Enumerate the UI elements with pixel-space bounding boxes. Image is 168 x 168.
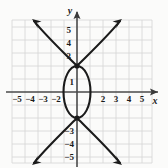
x-tick--2: −2 bbox=[51, 94, 61, 104]
coordinate-plane-graph: −5 −4 −3 −2 2 3 4 5 5 4 3 1 −3 −4 −5 y x bbox=[0, 0, 168, 168]
y-tick-1: 1 bbox=[70, 77, 75, 87]
x-tick-3: 3 bbox=[114, 94, 119, 104]
x-tick-4: 4 bbox=[127, 94, 132, 104]
intersection-point-top bbox=[74, 63, 79, 68]
x-tick-2: 2 bbox=[101, 94, 106, 104]
y-tick-5: 5 bbox=[67, 25, 72, 35]
y-tick-4: 4 bbox=[67, 38, 72, 48]
y-tick-3: 3 bbox=[67, 51, 72, 61]
x-tick--3: −3 bbox=[38, 94, 48, 104]
x-tick-5: 5 bbox=[140, 94, 145, 104]
x-tick--4: −4 bbox=[25, 94, 35, 104]
graph-canvas: −5 −4 −3 −2 2 3 4 5 5 4 3 1 −3 −4 −5 y x bbox=[0, 0, 168, 168]
x-tick--5: −5 bbox=[12, 94, 22, 104]
y-axis-label: y bbox=[67, 5, 73, 16]
intersection-point-bottom bbox=[74, 115, 79, 120]
y-tick--3: −3 bbox=[64, 126, 74, 136]
x-axis-label: x bbox=[152, 95, 158, 106]
y-tick--4: −4 bbox=[64, 139, 74, 149]
y-tick--5: −5 bbox=[64, 152, 74, 162]
